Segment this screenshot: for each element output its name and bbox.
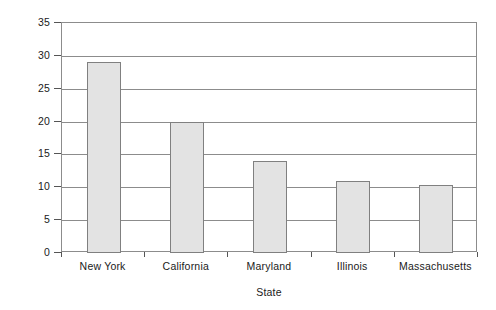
x-tick-label: Massachusetts [399,260,472,272]
y-tick-mark [54,55,61,56]
y-tick-mark [54,153,61,154]
x-axis-title: State [61,286,477,298]
bar [253,161,287,253]
y-tick-label: 20 [14,115,50,127]
bar-chart-figure: Number of programs 05101520253035 New Yo… [0,0,496,310]
bar [170,122,204,253]
x-tick-mark [311,252,312,257]
y-tick-label: 0 [14,246,50,258]
x-tick-label: Maryland [247,260,292,272]
y-tick-label: 30 [14,49,50,61]
y-tick-mark [54,88,61,89]
x-tick-mark [227,252,228,257]
bar [87,62,121,253]
x-tick-mark [144,252,145,257]
gridline [62,122,476,123]
y-tick-label: 5 [14,213,50,225]
y-tick-mark [54,22,61,23]
bar [419,185,453,253]
y-tick-mark [54,219,61,220]
y-tick-label: 25 [14,82,50,94]
gridline [62,154,476,155]
x-tick-label: California [163,260,209,272]
x-tick-mark [61,252,62,257]
y-tick-label: 15 [14,147,50,159]
gridline [62,89,476,90]
y-tick-mark [54,121,61,122]
y-tick-mark [54,186,61,187]
gridline [62,56,476,57]
bar [336,181,370,253]
x-tick-label: New York [80,260,126,272]
x-tick-label: Illinois [337,260,368,272]
x-tick-mark [394,252,395,257]
y-tick-label: 35 [14,16,50,28]
y-tick-mark [54,252,61,253]
plot-area [61,22,477,252]
x-tick-mark [477,252,478,257]
y-tick-label: 10 [14,180,50,192]
